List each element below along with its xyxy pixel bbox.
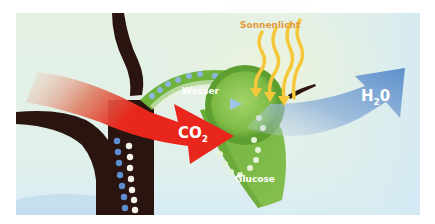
h2o-label-o: 0 [380, 87, 390, 105]
glucose-label: Glucose [235, 174, 275, 184]
co2-label-main: CO [178, 124, 202, 142]
h2o-label-h: H [361, 87, 374, 105]
water-label: Wasser [182, 86, 219, 96]
photosynthesis-diagram: Sonnenlicht Wasser CO2 H20 Glucose [0, 0, 435, 224]
co2-label-subscript: 2 [202, 134, 208, 144]
sunlight-label: Sonnenlicht [240, 20, 301, 30]
